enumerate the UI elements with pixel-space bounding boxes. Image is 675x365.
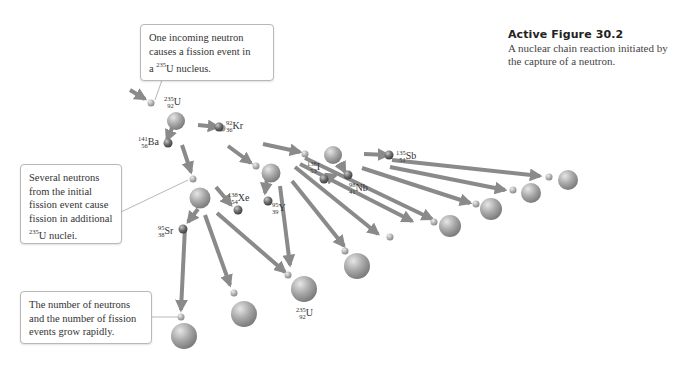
label-sb135: 13551Sb — [396, 149, 416, 163]
label-sr95: 9538Sr — [158, 224, 173, 238]
callout-line: events grow rapidly. — [29, 325, 143, 339]
label-kr92: 9236Kr — [226, 119, 243, 133]
label-i138: 13853I — [307, 160, 320, 174]
callout-several-neutrons: Several neutrons from the initial fissio… — [20, 164, 122, 244]
figure-description: A nuclear chain reaction initiated by th… — [508, 42, 675, 68]
callout-line: One incoming neutron — [149, 31, 265, 45]
label-u235-bottom: 23592U — [296, 306, 313, 320]
callout-incoming-neutron: One incoming neutron causes a fission ev… — [140, 24, 274, 81]
figure-caption: Active Figure 30.2 A nuclear chain react… — [508, 28, 675, 68]
callout-line: fission event cause — [29, 198, 113, 212]
callout-growth: The number of neutrons and the number of… — [20, 291, 152, 344]
callout-line: Several neutrons — [29, 171, 113, 185]
figure-title: Active Figure 30.2 — [508, 28, 675, 41]
callout-line: The number of neutrons — [29, 298, 143, 312]
label-y95: 9539Y — [272, 201, 286, 215]
label-nb98: 9841Nb — [349, 181, 368, 195]
callout-line: 235U nuclei. — [29, 225, 113, 242]
callout-line: from the initial — [29, 185, 113, 199]
label-xe138: 13854Xe — [228, 191, 249, 205]
callout-line: and the number of fission — [29, 312, 143, 326]
label-u235-top: 23592U — [164, 95, 181, 109]
label-ba141: 14156Ba — [138, 135, 159, 149]
callout-line: fission in additional — [29, 212, 113, 226]
callout-line: a 235U nucleus. — [149, 58, 265, 75]
callout-line: causes a fission event in — [149, 45, 265, 59]
